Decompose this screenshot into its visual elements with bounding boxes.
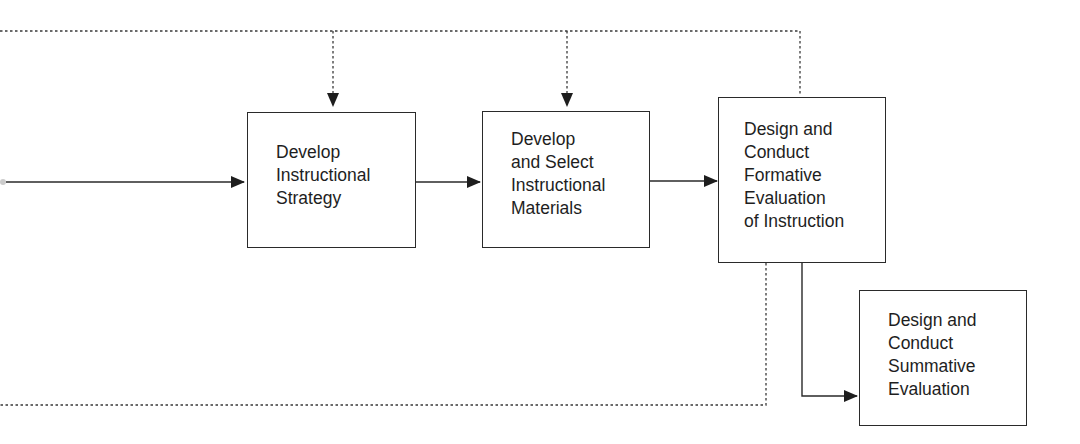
box-label: Design and Conduct Formative Evaluation … [744,118,844,233]
box-label: Develop Instructional Strategy [276,141,370,210]
box-develop-instructional-strategy: Develop Instructional Strategy [247,112,416,248]
box-label: Develop and Select Instructional Materia… [511,128,605,220]
incoming-line-stub [0,179,6,185]
box-formative-evaluation: Design and Conduct Formative Evaluation … [718,97,886,263]
box-label: Design and Conduct Summative Evaluation [888,309,977,401]
feedback-line-bottom [0,263,766,405]
arrow-formative-to-summative [802,263,857,396]
box-develop-select-materials: Develop and Select Instructional Materia… [482,111,650,248]
box-summative-evaluation: Design and Conduct Summative Evaluation [859,290,1027,426]
feedback-line-top [0,31,800,106]
